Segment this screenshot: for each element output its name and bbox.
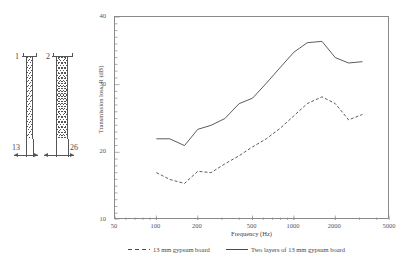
y-tick-label: 40 (84, 12, 106, 19)
wall-label-1: 1 (15, 52, 19, 61)
axis-major-ticks (115, 17, 390, 220)
plot-svg (115, 17, 390, 220)
y-tick-label: 30 (84, 80, 106, 87)
legend-swatch-dashed-icon (128, 249, 150, 250)
dimension-arrow-1-right (34, 153, 38, 157)
x-tick-label: 500 (235, 222, 269, 229)
axis-minor-ticks (115, 24, 390, 220)
wall-double-cap-stem-right (72, 53, 73, 57)
y-axis-title: Transmission loss, R (dB) (97, 40, 104, 160)
legend-swatch-solid-icon (226, 249, 248, 250)
chart-legend: 13 mm gypsum board Two layers of 13 mm g… (128, 243, 345, 255)
dimension-arrow-1-left (14, 153, 18, 157)
legend-label-two-layers: Two layers of 13 mm gypsum board (251, 246, 345, 253)
wall-double-cap-stem-left (53, 53, 54, 57)
wall-single-cap-stem-left (23, 53, 24, 57)
x-tick-label: 1000 (276, 222, 310, 229)
y-tick-label: 20 (84, 147, 106, 154)
plot-area (114, 16, 389, 219)
wall-double-layer (56, 57, 68, 139)
x-axis-title: Frequency (Hz) (114, 230, 389, 237)
wall-double-hatch (56, 57, 68, 139)
dimension-arrow-2-right (70, 153, 74, 157)
legend-item-two-layers: Two layers of 13 mm gypsum board (226, 246, 345, 253)
wall-label-2: 2 (46, 52, 50, 61)
legend-label-single-layer: 13 mm gypsum board (153, 246, 210, 253)
wall-single-layer (26, 57, 33, 139)
legend-item-single-layer: 13 mm gypsum board (128, 246, 210, 253)
series-line-two-layers (156, 41, 362, 145)
x-tick-label: 50 (97, 222, 131, 229)
y-tick-label: 10 (84, 215, 106, 222)
wall-double-top-cap (52, 56, 73, 57)
transmission-loss-chart: Transmission loss, R (dB) Frequency (Hz)… (84, 8, 406, 258)
x-tick-label: 100 (138, 222, 172, 229)
x-tick-label: 2000 (317, 222, 351, 229)
dimension-arrow-2-left (44, 153, 48, 157)
x-tick-label: 200 (180, 222, 214, 229)
wall-single-hatch (26, 57, 33, 139)
wall-single-top-cap (22, 56, 37, 57)
x-tick-label: 5000 (372, 222, 406, 229)
dimension-value-2: 26 (70, 143, 78, 152)
series-line-single-layer (156, 97, 362, 184)
dimension-value-1: 13 (12, 143, 20, 152)
figure-root: 1 2 13 26 Transmission (0, 0, 412, 260)
wall-single-cap-stem-right (36, 53, 37, 57)
